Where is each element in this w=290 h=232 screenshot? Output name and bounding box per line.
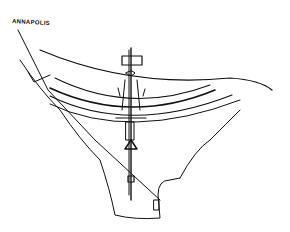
central-axis (116, 48, 146, 200)
crescent-bands (40, 50, 272, 122)
site-sketch (0, 0, 290, 232)
